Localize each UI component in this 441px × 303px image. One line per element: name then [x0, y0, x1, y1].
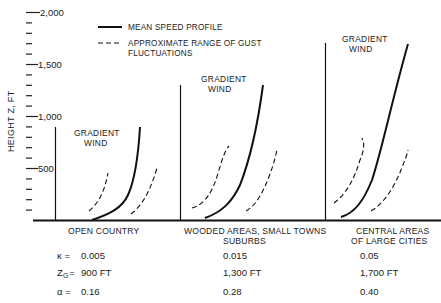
gust-lower-curve	[89, 173, 108, 211]
region-label-wooded-line1: WOODED AREAS, SMALL TOWNS	[184, 226, 326, 236]
region-label-central-line1: CENTRAL AREAS	[356, 226, 430, 236]
y-tick-label-2000: 2,000	[40, 7, 64, 18]
y-axis-title: HEIGHT Z, FT	[6, 90, 16, 152]
region-open-country: GRADIENT WIND	[56, 127, 158, 220]
region-central-areas: GRADIENT WIND	[326, 34, 409, 220]
legend: MEAN SPEED PROFILE APPROXIMATE RANGE OF …	[98, 23, 262, 58]
kappa-value-open: 0.005	[81, 250, 105, 261]
y-tick-label-500: 500	[38, 163, 54, 174]
gradient-label-line1: GRADIENT	[74, 128, 120, 138]
zg-value-open: 900 FT	[81, 267, 112, 278]
gradient-label-line2: WIND	[349, 44, 373, 54]
alpha-value-wooded: 0.28	[223, 286, 242, 297]
region-wooded-areas: GRADIENT WIND	[181, 74, 278, 220]
kappa-value-central: 0.05	[360, 250, 379, 261]
zg-value-central: 1,700 FT	[360, 267, 399, 278]
zg-label: ZG=	[57, 267, 75, 279]
legend-gust-label-line2: FLUCTUATIONS	[128, 49, 193, 58]
y-tick-label-1000: 1,000	[38, 111, 62, 122]
gradient-label-line2: WIND	[84, 138, 108, 148]
mean-speed-curve	[341, 44, 408, 217]
gust-lower-curve	[334, 138, 364, 203]
parameter-table: κ = 0.005 0.015 0.05 ZG= 900 FT 1,300 FT…	[57, 250, 399, 297]
region-label-central-line2: OF LARGE CITIES	[351, 236, 428, 246]
legend-mean-label: MEAN SPEED PROFILE	[128, 23, 223, 32]
legend-gust-label-line1: APPROXIMATE RANGE OF GUST	[128, 39, 262, 48]
zg-value-wooded: 1,300 FT	[223, 267, 262, 278]
alpha-value-central: 0.40	[360, 286, 379, 297]
gust-lower-curve	[192, 146, 229, 208]
wind-profile-figure: 2,000 1,500 1,000 500 HEIGHT Z, FT MEAN …	[0, 0, 441, 303]
kappa-value-wooded: 0.015	[223, 250, 247, 261]
region-label-open-country: OPEN COUNTRY	[68, 226, 140, 236]
gradient-label-line1: GRADIENT	[342, 34, 388, 44]
kappa-label: κ =	[57, 250, 70, 261]
gust-upper-curve	[371, 150, 408, 211]
alpha-label: α =	[57, 286, 71, 297]
region-label-wooded-line2: SUBURBS	[223, 236, 266, 246]
y-tick-label-1500: 1,500	[38, 59, 62, 70]
gradient-label-line2: WIND	[208, 84, 232, 94]
alpha-value-open: 0.16	[81, 286, 100, 297]
mean-speed-curve	[205, 85, 263, 218]
gust-upper-curve	[246, 149, 277, 211]
gradient-label-line1: GRADIENT	[201, 74, 247, 84]
